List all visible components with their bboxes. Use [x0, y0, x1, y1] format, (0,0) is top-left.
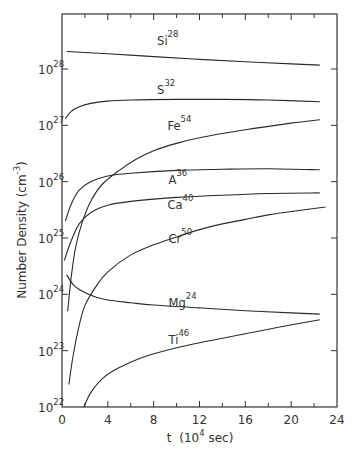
curve-s32	[65, 99, 319, 118]
x-tick-labels: 04812162024	[58, 413, 344, 427]
label-fe54: Fe54	[167, 114, 191, 133]
label-mg24: Mg24	[169, 291, 197, 310]
y-tick-labels: 1022102310241025102610271028	[38, 59, 64, 415]
label-si28: Si28	[157, 29, 178, 48]
y-axis-title: Number Density (cm-3)	[12, 161, 29, 299]
y-tick-label: 1024	[38, 284, 64, 302]
x-tick-label: 12	[192, 413, 207, 427]
label-s32: S32	[157, 78, 175, 97]
curve-cr50	[69, 207, 326, 385]
y-tick-label: 1023	[38, 341, 64, 359]
label-cr50: Cr50	[169, 227, 193, 246]
x-tick-label: 24	[329, 413, 344, 427]
y-tick-label: 1028	[38, 59, 64, 77]
x-axis-title: t (104 sec)	[167, 428, 234, 445]
x-tick-label: 16	[238, 413, 253, 427]
x-tick-label: 0	[58, 413, 66, 427]
curve-fe54	[68, 120, 320, 312]
label-a36: A36	[169, 168, 188, 187]
series-curves	[64, 52, 325, 408]
x-tick-label: 8	[150, 413, 158, 427]
label-ti46: Ti46	[168, 328, 190, 347]
x-tick-label: 20	[284, 413, 299, 427]
x-tick-label: 4	[104, 413, 112, 427]
label-ca40: Ca40	[167, 193, 193, 212]
y-tick-label: 1026	[38, 172, 64, 190]
y-tick-label: 1027	[38, 115, 64, 133]
number-density-chart: 04812162024 1022102310241025102610271028…	[0, 0, 352, 451]
curve-si28	[67, 52, 320, 66]
series-labels: Si28S32Fe54A36Ca40Cr50Mg24Ti46	[157, 29, 197, 347]
curve-ti46	[84, 320, 320, 407]
y-tick-label: 1025	[38, 228, 64, 246]
